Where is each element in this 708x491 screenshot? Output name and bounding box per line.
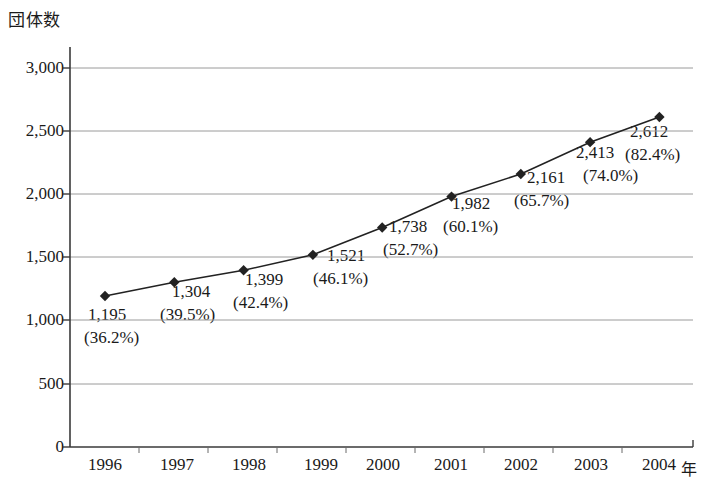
data-point-marker-1997 [169,277,179,287]
data-point-marker-1999 [308,250,318,260]
series-line [105,117,659,296]
data-point-marker-2000 [377,222,387,232]
series-markers [100,112,665,301]
data-point-marker-1998 [238,265,248,275]
axes [70,47,693,447]
data-point-marker-2001 [446,191,456,201]
x-axis-ticks [139,447,622,453]
data-point-marker-2003 [585,137,595,147]
line-chart: 団体数 3,000 2,500 2,000 1,500 1,000 500 0 … [0,0,708,491]
plot-area [0,0,708,491]
data-point-marker-2004 [654,112,664,122]
data-point-marker-2002 [516,169,526,179]
data-point-marker-1996 [100,291,110,301]
y-axis-ticks [63,68,70,447]
